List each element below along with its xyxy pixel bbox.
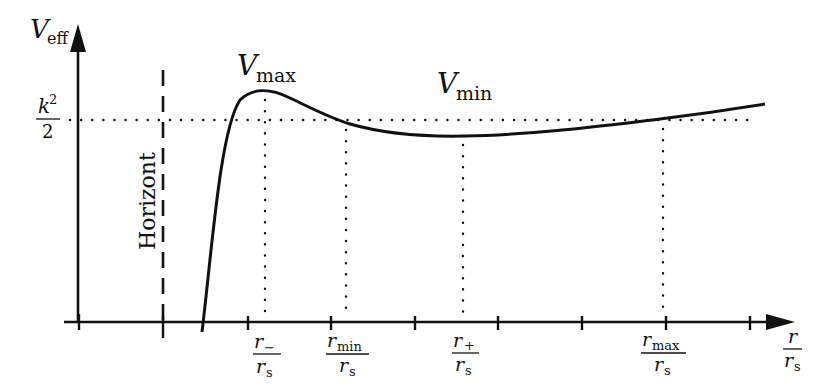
svg-text:min: min [456,82,492,104]
svg-text:s: s [664,363,671,378]
vmax-label: V max [237,49,296,86]
svg-text:max: max [256,64,296,86]
svg-text:max: max [652,338,680,353]
potential-curve [202,91,765,332]
svg-text:s: s [349,364,356,379]
svg-text:−: − [264,340,275,355]
guide-lines [265,100,663,316]
x-label-r-minus: r − r s [253,330,281,380]
svg-text:+: + [464,338,475,353]
effective-potential-diagram: V eff k 2 2 Horizont V max V min r − r s… [0,0,831,390]
y-axis-label: V eff [30,14,69,48]
y-axis-arrow-icon [70,24,86,52]
svg-text:min: min [337,339,362,354]
svg-text:eff: eff [47,29,69,48]
x-axis-label: r r s [783,325,802,374]
svg-text:s: s [266,365,273,380]
svg-text:2: 2 [42,121,53,142]
svg-text:r: r [453,329,464,351]
x-label-r-max: r max r s [641,328,686,378]
x-label-r-plus: r + r s [452,329,479,378]
vmin-label: V min [437,67,492,104]
svg-text:2: 2 [49,92,57,107]
svg-text:s: s [465,363,472,378]
x-label-r-min: r min r s [326,329,369,379]
svg-text:r: r [788,325,799,347]
svg-text:s: s [794,359,801,374]
axes [64,24,795,338]
horizon-label: Horizont [135,152,160,250]
energy-level-label: k 2 2 [36,92,60,142]
